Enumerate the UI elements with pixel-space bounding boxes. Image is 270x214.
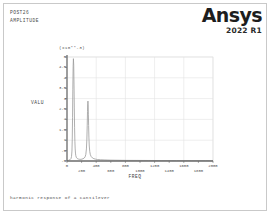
x-tick-label: 800 xyxy=(122,164,129,168)
x-tick-label: 0 xyxy=(66,164,68,168)
x-tick-label: 1800 xyxy=(194,169,203,173)
x-tick-label: 400 xyxy=(93,164,100,168)
plot-page: POST26 AMPLITUDE Ansys 2022 R1 (x10**-3)… xyxy=(0,0,270,214)
x-tick-label: 1400 xyxy=(165,169,174,173)
y-axis-title: VALU xyxy=(31,100,44,105)
x-tick-label: 1000 xyxy=(135,169,144,173)
x-axis-tick-labels: 0200400600800100012001400160018002000 xyxy=(0,0,270,214)
x-axis-title: FREQ xyxy=(0,174,270,179)
x-tick-label: 2000 xyxy=(208,164,217,168)
x-tick-label: 200 xyxy=(78,169,85,173)
x-tick-label: 1600 xyxy=(179,164,188,168)
x-tick-label: 1200 xyxy=(150,164,159,168)
harmonic-response-chart: (x10**-3) .0.511.522.533.544.55 02004006… xyxy=(0,0,270,214)
plot-caption: harmonic response of a cantilever xyxy=(10,195,110,200)
x-tick-label: 600 xyxy=(107,169,114,173)
